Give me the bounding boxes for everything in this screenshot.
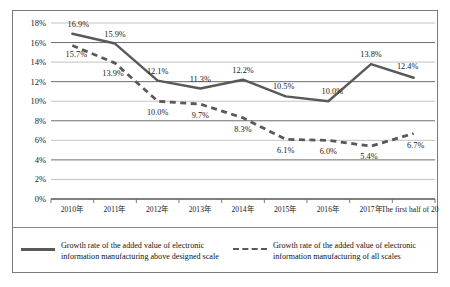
y-axis-tick-label: 4%	[35, 155, 46, 165]
data-label: 6.7%	[407, 141, 424, 150]
y-axis-tick-label: 18%	[30, 18, 46, 28]
data-label: 12.1%	[147, 67, 169, 76]
legend-label-line2: information manufacturing above designed…	[61, 252, 219, 261]
x-axis-tick-labels: 2010年2011年2012年2013年2014年2015年2016年2017年…	[61, 204, 439, 214]
x-axis-tick-label: 2012年	[146, 204, 169, 214]
data-label: 10.0%	[147, 108, 169, 117]
legend-label-line1: Growth rate of the added value of electr…	[273, 241, 416, 250]
data-label: 16.9%	[68, 20, 90, 29]
x-axis-tick-label: 2013年	[189, 204, 212, 214]
data-label: 15.7%	[66, 50, 88, 59]
data-label: 10.5%	[273, 82, 295, 91]
line-chart-svg: 0%2%4%6%8%10%12%14%16%18% 2010年2011年2012…	[13, 11, 439, 226]
y-axis-tick-label: 12%	[30, 77, 46, 87]
data-label: 11.3%	[190, 75, 211, 84]
x-axis-tick-label: 2014年	[231, 204, 254, 214]
legend-item-above-designed-scale: Growth rate of the added value of electr…	[13, 241, 225, 261]
x-axis-tick-label: 2015年	[274, 204, 297, 214]
y-axis-tick-label: 8%	[35, 116, 46, 126]
data-label: 15.9%	[104, 30, 126, 39]
data-label: 13.8%	[360, 50, 382, 59]
data-label: 10.0%	[322, 87, 344, 96]
x-axis-tick-label: 2010年	[61, 204, 84, 214]
legend-label-above-designed-scale: Growth rate of the added value of electr…	[61, 241, 219, 261]
legend-label-line2: information manufacturing of all scales	[273, 252, 401, 261]
y-axis-tick-label: 0%	[35, 194, 46, 204]
data-label: 6.1%	[277, 146, 294, 155]
legend-label-line1: Growth rate of the added value of electr…	[61, 241, 204, 250]
y-axis-tick-labels: 0%2%4%6%8%10%12%14%16%18%	[30, 18, 46, 204]
data-label: 12.2%	[232, 66, 254, 75]
y-axis-tick-label: 10%	[30, 96, 46, 106]
y-axis-tick-label: 6%	[35, 135, 46, 145]
data-label: 13.9%	[102, 69, 124, 78]
x-axis-tick-marks	[51, 199, 435, 203]
y-axis-tick-label: 16%	[30, 38, 46, 48]
data-label: 5.4%	[360, 152, 377, 161]
data-label: 9.7%	[192, 111, 209, 120]
data-label: 6.0%	[320, 147, 337, 156]
x-axis-tick-label: 2016年	[317, 204, 340, 214]
x-axis-tick-label: 2011年	[104, 204, 127, 214]
data-label: 12.4%	[397, 62, 419, 71]
legend-label-all-scales: Growth rate of the added value of electr…	[273, 241, 416, 261]
legend-dashed-line-icon	[233, 244, 267, 254]
chart-legend: Growth rate of the added value of electr…	[13, 227, 437, 273]
x-axis-tick-label: The first half of 2018	[381, 205, 439, 214]
plot-area: 0%2%4%6%8%10%12%14%16%18% 2010年2011年2012…	[13, 11, 439, 226]
chart-figure: 0%2%4%6%8%10%12%14%16%18% 2010年2011年2012…	[12, 10, 438, 273]
legend-item-all-scales: Growth rate of the added value of electr…	[225, 241, 437, 261]
x-axis-tick-label: 2017年	[359, 204, 382, 214]
y-axis-tick-label: 14%	[30, 57, 46, 67]
data-label: 8.3%	[234, 125, 251, 134]
y-axis-tick-label: 2%	[35, 174, 46, 184]
legend-solid-line-icon	[21, 244, 55, 254]
